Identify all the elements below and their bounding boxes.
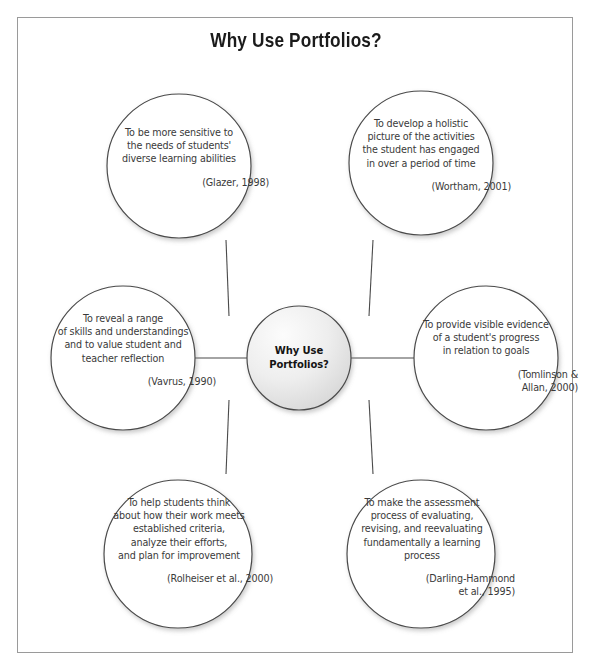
circle-assessment-process [347,480,495,628]
connector-hub-to-assessment-process [369,400,373,474]
why-use-portfolios-diagram: Why Use Portfolios? [0,0,592,670]
circle-hub-why-use-portfolios [247,306,351,410]
connector-hub-to-sensitive-to-needs [226,240,229,316]
circle-sensitive-to-needs [107,94,251,238]
diagram-canvas [0,0,592,670]
circle-help-students-think [104,480,252,628]
circle-reveal-range-of-skills [51,286,195,430]
connector-hub-to-help-students-think [226,400,229,474]
circle-holistic-picture [349,91,493,235]
circle-visible-evidence [414,286,558,430]
connector-hub-to-holistic-picture [369,240,373,316]
